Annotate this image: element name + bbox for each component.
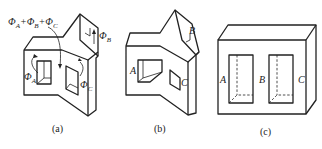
label-flux-a: ΦA (24, 72, 36, 85)
label-b-c: C (181, 78, 188, 88)
caption-c: (c) (260, 127, 271, 137)
label-flux-c: ΦC (80, 80, 92, 93)
label-b-b: B (189, 26, 195, 36)
label-b-a: A (130, 66, 136, 76)
label-flux-b: ΦB (99, 31, 111, 44)
label-c-c: C (298, 75, 305, 85)
label-c-b: B (259, 75, 265, 85)
caption-a: (a) (52, 124, 63, 134)
core-c (218, 25, 316, 114)
label-c-a: A (220, 75, 226, 85)
caption-b: (b) (154, 124, 166, 134)
label-sum-flux: ΦA+ΦB+ΦC (8, 17, 58, 30)
